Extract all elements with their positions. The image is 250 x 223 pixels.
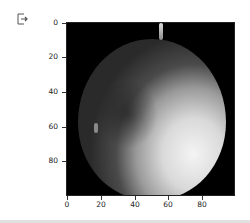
cell-divider [0, 220, 250, 223]
y-tick-label: 20 [38, 52, 58, 61]
x-tick-label: 40 [127, 200, 143, 209]
y-tick-label: 60 [38, 122, 58, 131]
x-tick-label: 20 [93, 200, 109, 209]
y-tick-label: 0 [38, 18, 58, 27]
apple-stem [159, 23, 163, 40]
output-redirect-icon[interactable] [17, 13, 29, 25]
x-tick-label: 60 [160, 200, 176, 209]
y-tick [62, 127, 66, 128]
y-tick [62, 92, 66, 93]
y-tick [62, 161, 66, 162]
y-tick [62, 57, 66, 58]
y-tick-label: 40 [38, 87, 58, 96]
y-tick [62, 23, 66, 24]
image-plot [66, 22, 235, 196]
apple-highlight-spot [94, 123, 98, 133]
x-tick-label: 0 [59, 200, 75, 209]
x-tick-label: 80 [194, 200, 210, 209]
apple-image [78, 39, 226, 196]
y-tick-label: 80 [38, 156, 58, 165]
